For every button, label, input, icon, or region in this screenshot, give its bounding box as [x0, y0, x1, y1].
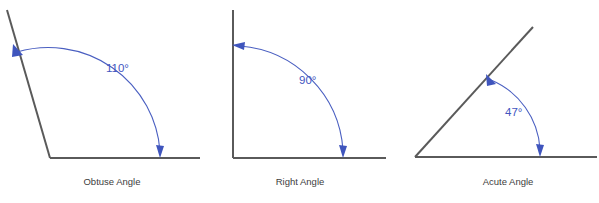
diagram-acute: 47° Acute Angle — [415, 27, 597, 187]
obtuse-arc-arrowhead-end — [156, 145, 164, 158]
right-caption: Right Angle — [276, 176, 325, 187]
acute-angle-value: 47° — [505, 106, 522, 118]
obtuse-caption: Obtuse Angle — [83, 176, 140, 187]
right-angle-arc — [240, 46, 343, 150]
right-angle-value: 90° — [299, 74, 316, 86]
acute-slanted-ray — [415, 27, 533, 157]
angle-types-figure: 110° Obtuse Angle 90° Right Angle 47° Ac… — [0, 0, 599, 203]
diagram-right: 90° Right Angle — [232, 10, 386, 187]
right-arc-arrowhead-end — [339, 145, 347, 158]
diagram-obtuse: 110° Obtuse Angle — [7, 10, 200, 187]
acute-arc-arrowhead-end — [536, 144, 544, 157]
obtuse-slanted-ray — [7, 10, 50, 158]
obtuse-angle-arc — [17, 48, 160, 151]
angle-diagrams-canvas: 110° Obtuse Angle 90° Right Angle 47° Ac… — [0, 0, 599, 203]
acute-arc-arrowhead-start — [486, 74, 496, 86]
acute-caption: Acute Angle — [483, 176, 534, 187]
obtuse-angle-value: 110° — [106, 62, 129, 74]
